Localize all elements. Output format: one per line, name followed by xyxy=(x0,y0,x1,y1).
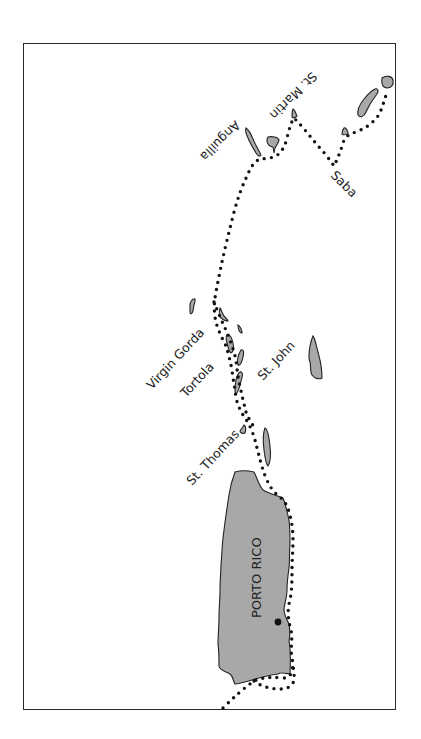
label-anguilla: Anguilla xyxy=(197,118,243,164)
island-st-croix-like xyxy=(263,428,270,466)
island-st-thomas xyxy=(240,425,246,433)
label-porto-rico: PORTO RICO xyxy=(249,537,264,618)
island-anegada-like xyxy=(309,336,322,379)
map-canvas: Anguilla St. Martin Saba Virgin Gorda To… xyxy=(0,0,421,739)
island-top-right-elongated xyxy=(358,89,378,117)
island-st-john-a xyxy=(238,350,244,365)
island-small-cay-1 xyxy=(238,325,242,333)
voyage-route-branch xyxy=(214,302,256,430)
label-st-john: St. John xyxy=(254,338,298,383)
island-top-right-round xyxy=(382,76,393,88)
island-sombrero-like xyxy=(190,299,195,314)
island-saba-small xyxy=(342,128,348,135)
town-dot xyxy=(275,619,282,626)
label-tortola: Tortola xyxy=(177,359,217,401)
island-anguilla xyxy=(246,128,261,156)
label-saba: Saba xyxy=(328,168,361,201)
island-st-martin xyxy=(267,137,279,153)
island-st-martin-tip xyxy=(292,109,297,118)
islands xyxy=(190,76,393,684)
